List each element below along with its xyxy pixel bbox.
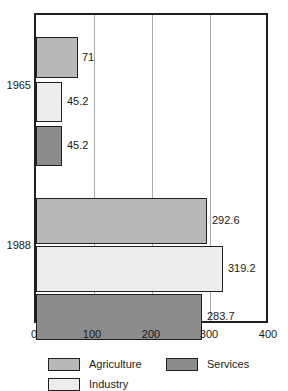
legend-item-agriculture: Agriculture <box>48 358 142 371</box>
chart-legend: Agriculture Services Industry <box>0 352 282 390</box>
legend-swatch-industry <box>48 378 80 391</box>
bar-1965-agriculture <box>36 37 78 78</box>
chart-title-clipped: ...AND COUNTRIES <box>0 0 282 3</box>
bar-value-1988-industry: 319.2 <box>228 263 256 274</box>
bar-1965-industry <box>36 82 62 122</box>
group-label-1988: 1988 <box>1 240 31 251</box>
bar-1965-services <box>36 126 62 166</box>
legend-swatch-services <box>166 358 198 371</box>
legend-label-services: Services <box>207 359 249 370</box>
plot-area: 71 45.2 45.2 292.6 319.2 283.7 <box>34 13 268 323</box>
bar-value-1988-agriculture: 292.6 <box>212 215 240 226</box>
xtick-300: 300 <box>189 329 229 340</box>
legend-item-services: Services <box>166 358 249 371</box>
bar-value-1965-services: 45.2 <box>67 140 88 151</box>
xtick-200: 200 <box>131 329 171 340</box>
bar-1988-industry <box>36 246 223 292</box>
bar-value-1965-industry: 45.2 <box>67 96 88 107</box>
legend-label-industry: Industry <box>89 379 128 390</box>
xtick-0: 0 <box>14 329 54 340</box>
bar-1988-services <box>36 294 202 340</box>
legend-label-agriculture: Agriculture <box>89 359 142 370</box>
chart-title: ...AND COUNTRIES <box>0 0 282 2</box>
bar-value-1965-agriculture: 71 <box>82 52 94 63</box>
group-label-1965: 1965 <box>1 80 31 91</box>
xtick-400: 400 <box>248 329 288 340</box>
bar-1988-agriculture <box>36 198 207 244</box>
xtick-100: 100 <box>72 329 112 340</box>
legend-item-industry: Industry <box>48 378 128 391</box>
legend-swatch-agriculture <box>48 358 80 371</box>
bar-value-1988-services: 283.7 <box>207 311 235 322</box>
